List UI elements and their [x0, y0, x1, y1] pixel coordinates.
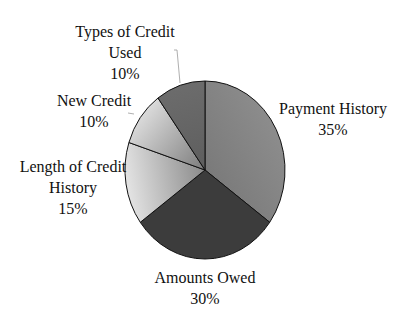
slice-label-payment-history: Payment History35%: [279, 100, 387, 138]
slice-value-label: 30%: [190, 290, 219, 307]
slice-name-label: Payment History: [279, 100, 387, 118]
pie-chart: Payment History35%Amounts Owed30%Length …: [0, 0, 405, 318]
slice-name-label: Length of Credit: [20, 158, 127, 176]
slice-value-label: 10%: [79, 113, 108, 130]
slice-label-types-of-credit-used: Types of CreditUsed10%: [75, 23, 175, 82]
slice-value-label: 10%: [110, 65, 139, 82]
slice-name-label: History: [49, 179, 97, 197]
slice-name-label: Types of Credit: [75, 23, 175, 41]
slice-label-length-of-credit-history: Length of CreditHistory15%: [20, 158, 127, 217]
slice-value-label: 35%: [318, 121, 347, 138]
pie-slices: [125, 81, 285, 259]
slice-value-label: 15%: [58, 200, 87, 217]
slice-name-label: New Credit: [57, 92, 132, 109]
slice-name-label: Amounts Owed: [155, 269, 256, 286]
leader-line-types-of-credit-used: [174, 50, 180, 83]
leader-line-new-credit: [128, 113, 134, 114]
slice-label-amounts-owed: Amounts Owed30%: [155, 269, 256, 307]
slice-name-label: Used: [109, 44, 142, 61]
slice-label-new-credit: New Credit10%: [57, 92, 132, 130]
